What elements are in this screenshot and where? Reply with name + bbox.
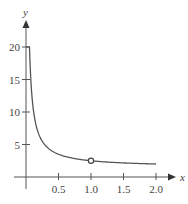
axes xyxy=(14,26,170,189)
function-curve xyxy=(29,47,156,164)
open-circle-point xyxy=(88,158,93,163)
x-tick-label: 1.5 xyxy=(117,183,131,195)
x-tick-label: 0.5 xyxy=(52,183,66,195)
y-tick-label: 20 xyxy=(9,41,21,53)
y-tick-label: 10 xyxy=(9,106,21,118)
x-axis-label: x xyxy=(179,171,185,183)
x-tick-label: 1.0 xyxy=(84,183,98,195)
x-axis-arrow-icon xyxy=(168,174,176,181)
y-axis-arrow-icon xyxy=(23,20,30,28)
function-plot: x y 0.5 1.0 1.5 2.0 5 10 15 20 xyxy=(0,0,188,204)
y-axis-label: y xyxy=(22,6,28,18)
y-tick-label: 15 xyxy=(9,74,21,86)
x-tick-label: 2.0 xyxy=(149,183,163,195)
y-tick-label: 5 xyxy=(15,139,21,151)
